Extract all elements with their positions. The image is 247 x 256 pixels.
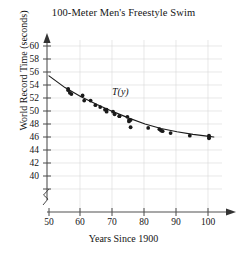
ytick-label-42: 42 [23, 158, 39, 168]
data-point [207, 136, 211, 140]
xtick-label-100: 100 [197, 217, 219, 227]
data-point [118, 114, 122, 118]
data-point [81, 94, 85, 98]
data-point [129, 125, 133, 129]
gridlines [47, 40, 222, 212]
xtick-label-80: 80 [133, 217, 155, 227]
chart-figure: 100-Meter Men's Freestyle Swim World Rec… [0, 0, 247, 256]
data-point [82, 99, 86, 103]
ytick-label-46: 46 [23, 132, 39, 142]
data-point [129, 118, 133, 122]
ytick-label-56: 56 [23, 67, 39, 77]
data-point [98, 105, 102, 109]
ytick-label-50: 50 [23, 106, 39, 116]
ytick-label-40: 40 [23, 171, 39, 181]
data-point [126, 115, 130, 119]
data-point [146, 126, 150, 130]
data-point [113, 112, 117, 116]
axes [43, 33, 236, 216]
xtick-label-60: 60 [69, 217, 91, 227]
xtick-label-90: 90 [165, 217, 187, 227]
data-point [70, 92, 74, 96]
data-point [89, 99, 93, 103]
ytick-label-52: 52 [23, 93, 39, 103]
xtick-label-70: 70 [101, 217, 123, 227]
data-point [188, 134, 192, 138]
data-point [94, 103, 98, 107]
ytick-label-44: 44 [23, 145, 39, 155]
data-point [105, 110, 109, 114]
ytick-label-48: 48 [23, 119, 39, 129]
ytick-label-54: 54 [23, 80, 39, 90]
data-point [161, 129, 165, 133]
xtick-label-50: 50 [38, 217, 60, 227]
data-point [169, 131, 173, 135]
ytick-label-58: 58 [23, 54, 39, 64]
ytick-label-60: 60 [23, 41, 39, 51]
scatter-points [66, 87, 211, 140]
